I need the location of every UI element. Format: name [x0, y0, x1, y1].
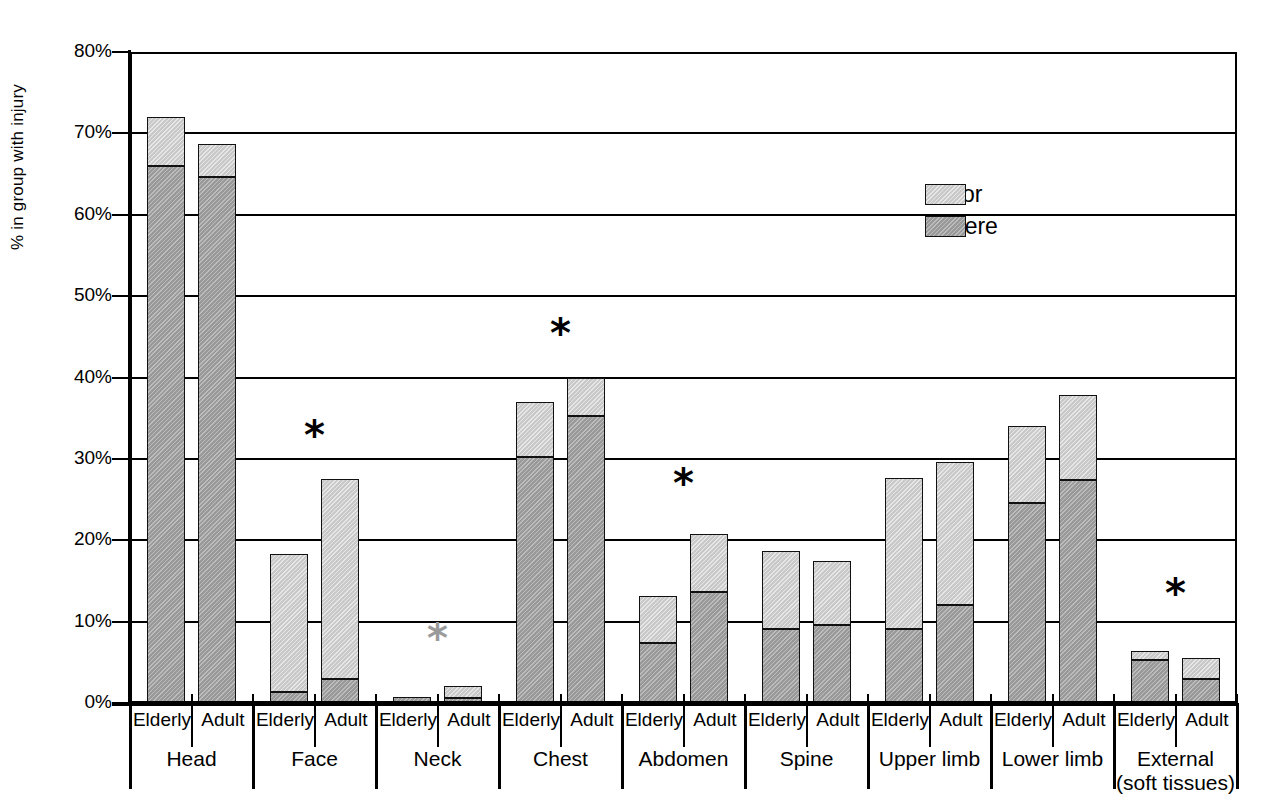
x-group-label-line1: Spine: [780, 747, 834, 771]
x-group-separator: [1236, 703, 1239, 789]
x-group-separator: [744, 703, 747, 789]
x-group-separator: [621, 703, 624, 789]
x-sub-label-adult: Adult: [1062, 709, 1105, 731]
x-sub-label-elderly: Elderly: [133, 709, 191, 731]
x-tick-mark: [1236, 694, 1238, 712]
x-group-label-line1: External: [1116, 747, 1235, 771]
y-tick-label: 80%: [74, 41, 112, 60]
x-group-label: Head: [166, 747, 216, 771]
x-sub-label-elderly: Elderly: [256, 709, 314, 731]
legend-swatch-severe: [925, 216, 966, 237]
legend-item-minor: Minor: [925, 180, 998, 209]
x-group-label-line1: Chest: [533, 747, 588, 771]
x-sub-label-elderly: Elderly: [1117, 709, 1175, 731]
x-group-label-line1: Abdomen: [639, 747, 729, 771]
chart-figure: % in group with injury 80%70%60%50%40%30…: [0, 0, 1270, 811]
x-group-label-line1: Neck: [414, 747, 462, 771]
legend: Minor Severe: [925, 180, 998, 244]
y-tick-label: 10%: [74, 611, 112, 630]
x-sub-label-elderly: Elderly: [502, 709, 560, 731]
x-group-label-line2: (soft tissues): [1116, 771, 1235, 795]
x-sub-label-adult: Adult: [570, 709, 613, 731]
y-axis-ticks: 80%70%60%50%40%30%20%10%0%: [0, 0, 112, 811]
x-sub-label-adult: Adult: [447, 709, 490, 731]
y-tick-label: 30%: [74, 448, 112, 467]
x-group-label: External(soft tissues): [1116, 747, 1235, 794]
x-tick-mark: [867, 694, 869, 712]
x-group-label-line1: Face: [291, 747, 338, 771]
x-group-separator: [375, 703, 378, 789]
x-sub-label-elderly: Elderly: [625, 709, 683, 731]
x-group-label: Face: [291, 747, 338, 771]
x-sub-label-elderly: Elderly: [994, 709, 1052, 731]
x-group-separator: [867, 703, 870, 789]
x-tick-mark: [621, 694, 623, 712]
x-tick-mark: [744, 694, 746, 712]
x-group-separator: [498, 703, 501, 789]
x-group-label: Spine: [780, 747, 834, 771]
x-group-separator: [252, 703, 255, 789]
y-tick-label: 60%: [74, 204, 112, 223]
x-tick-mark: [129, 694, 131, 712]
x-group-label: Abdomen: [639, 747, 729, 771]
x-group-separator: [990, 703, 993, 789]
x-sub-label-adult: Adult: [201, 709, 244, 731]
x-sub-label-adult: Adult: [693, 709, 736, 731]
x-group-label-line1: Lower limb: [1002, 747, 1104, 771]
x-group-label: Chest: [533, 747, 588, 771]
x-tick-mark: [375, 694, 377, 712]
x-tick-mark: [1113, 694, 1115, 712]
x-group-label: Lower limb: [1002, 747, 1104, 771]
x-axis: ElderlyAdultHeadElderlyAdultFaceElderlyA…: [130, 703, 1237, 811]
x-sub-label-adult: Adult: [816, 709, 859, 731]
y-tick-label: 20%: [74, 529, 112, 548]
x-tick-mark: [990, 694, 992, 712]
y-tick-label: 0%: [85, 692, 112, 711]
legend-item-severe: Severe: [925, 212, 998, 241]
x-sub-label-elderly: Elderly: [871, 709, 929, 731]
x-tick-mark: [498, 694, 500, 712]
x-tick-mark: [252, 694, 254, 712]
plot-area: ***** Minor Severe: [130, 52, 1237, 703]
y-tick-label: 50%: [74, 285, 112, 304]
y-tick-label: 70%: [74, 122, 112, 141]
x-sub-label-adult: Adult: [324, 709, 367, 731]
x-group-label: Neck: [414, 747, 462, 771]
x-sub-label-elderly: Elderly: [379, 709, 437, 731]
plot-frame: [130, 52, 1237, 703]
x-group-label-line1: Upper limb: [879, 747, 981, 771]
x-group-label-line1: Head: [166, 747, 216, 771]
x-group-separator: [129, 703, 132, 789]
y-tick-label: 40%: [74, 367, 112, 386]
x-group-label: Upper limb: [879, 747, 981, 771]
legend-swatch-minor: [925, 184, 966, 205]
x-sub-label-adult: Adult: [1185, 709, 1228, 731]
x-sub-label-elderly: Elderly: [748, 709, 806, 731]
x-sub-label-adult: Adult: [939, 709, 982, 731]
